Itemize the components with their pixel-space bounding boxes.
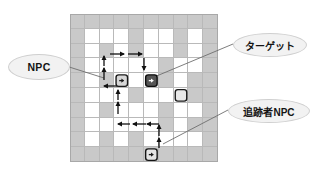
wall-cell (70, 132, 85, 147)
open-cell (188, 58, 203, 73)
wall-cell (85, 14, 100, 29)
open-cell (100, 58, 115, 73)
label-target: ターゲット (245, 38, 295, 53)
wall-cell (70, 44, 85, 59)
open-cell (159, 44, 174, 59)
open-cell (85, 73, 100, 88)
wall-cell (203, 44, 218, 59)
wall-cell (129, 147, 144, 162)
wall-cell (129, 88, 144, 103)
open-cell (100, 88, 115, 103)
open-cell (100, 29, 115, 44)
open-cell (144, 73, 159, 88)
wall-cell (70, 29, 85, 44)
open-cell (144, 118, 159, 133)
callout-chaser-npc: 追跡者NPC (228, 99, 310, 123)
open-cell (114, 29, 129, 44)
wall-cell (174, 44, 189, 59)
wall-cell (85, 147, 100, 162)
open-cell (144, 44, 159, 59)
wall-cell (129, 132, 144, 147)
wall-cell (114, 14, 129, 29)
open-cell (129, 103, 144, 118)
wall-cell (188, 147, 203, 162)
wall-cell (174, 14, 189, 29)
open-cell (188, 132, 203, 147)
open-cell (100, 118, 115, 133)
wall-cell (174, 147, 189, 162)
open-cell (129, 118, 144, 133)
label-chaser-npc: 追跡者NPC (243, 104, 294, 119)
open-cell (144, 132, 159, 147)
open-cell (85, 132, 100, 147)
open-cell (174, 132, 189, 147)
wall-cell (203, 132, 218, 147)
wall-cell (203, 147, 218, 162)
wall-cell (159, 58, 174, 73)
wall-cell (159, 147, 174, 162)
wall-cell (100, 73, 115, 88)
wall-cell (100, 132, 115, 147)
diagram-canvas: NPC ターゲット 追跡者NPC (0, 0, 314, 172)
open-cell (144, 103, 159, 118)
open-cell (174, 58, 189, 73)
wall-cell (203, 14, 218, 29)
wall-cell (70, 58, 85, 73)
wall-cell (188, 14, 203, 29)
open-cell (144, 29, 159, 44)
callout-npc: NPC (8, 54, 70, 80)
wall-cell (203, 118, 218, 133)
open-cell (85, 88, 100, 103)
wall-cell (159, 73, 174, 88)
open-cell (174, 103, 189, 118)
wall-cell (129, 14, 144, 29)
open-cell (114, 58, 129, 73)
wall-cell (114, 147, 129, 162)
wall-cell (129, 29, 144, 44)
open-cell (129, 73, 144, 88)
wall-cell (188, 73, 203, 88)
open-cell (114, 88, 129, 103)
wall-cell (100, 14, 115, 29)
open-cell (114, 44, 129, 59)
wall-cell (100, 44, 115, 59)
callout-target: ターゲット (233, 33, 307, 57)
maze-grid-cells (70, 14, 218, 162)
wall-cell (70, 14, 85, 29)
open-cell (114, 118, 129, 133)
wall-cell (159, 103, 174, 118)
wall-cell (100, 147, 115, 162)
open-cell (144, 58, 159, 73)
wall-cell (188, 88, 203, 103)
wall-cell (129, 44, 144, 59)
open-cell (114, 132, 129, 147)
open-cell (174, 88, 189, 103)
wall-cell (100, 103, 115, 118)
open-cell (159, 29, 174, 44)
open-cell (85, 58, 100, 73)
wall-cell (159, 14, 174, 29)
open-cell (174, 73, 189, 88)
wall-cell (70, 118, 85, 133)
wall-cell (203, 58, 218, 73)
wall-cell (144, 147, 159, 162)
open-cell (188, 103, 203, 118)
wall-cell (144, 14, 159, 29)
open-cell (188, 44, 203, 59)
open-cell (144, 88, 159, 103)
wall-cell (203, 103, 218, 118)
open-cell (114, 103, 129, 118)
open-cell (129, 58, 144, 73)
open-cell (159, 88, 174, 103)
open-cell (174, 118, 189, 133)
wall-cell (203, 29, 218, 44)
open-cell (159, 132, 174, 147)
wall-cell (188, 118, 203, 133)
maze-grid (70, 14, 218, 162)
wall-cell (70, 73, 85, 88)
wall-cell (70, 103, 85, 118)
wall-cell (70, 88, 85, 103)
label-npc: NPC (27, 61, 50, 73)
wall-cell (70, 147, 85, 162)
wall-cell (203, 88, 218, 103)
